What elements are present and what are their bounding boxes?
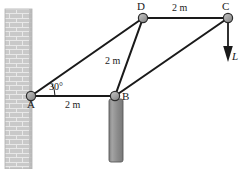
dimension-label-AB: 2 m — [65, 100, 80, 110]
support-post — [109, 99, 123, 162]
joint-D — [138, 13, 147, 22]
member-AD — [31, 18, 143, 96]
joint-label-A: A — [27, 99, 35, 110]
member-BC — [115, 18, 228, 96]
load-label: L — [232, 51, 238, 62]
joint-label-D: D — [137, 1, 145, 12]
angle-label: 30° — [49, 82, 63, 92]
joint-C — [223, 13, 232, 22]
dimension-label-BD: 2 m — [105, 56, 120, 66]
truss-diagram: A B C D 2 m 2 m 2 m 30° L — [0, 0, 241, 169]
joint-B — [110, 91, 119, 100]
dimension-label-DC: 2 m — [172, 3, 187, 13]
diagram-canvas — [0, 0, 241, 169]
support-wall — [5, 9, 32, 169]
joint-label-C: C — [222, 1, 229, 12]
joint-label-B: B — [122, 91, 129, 102]
